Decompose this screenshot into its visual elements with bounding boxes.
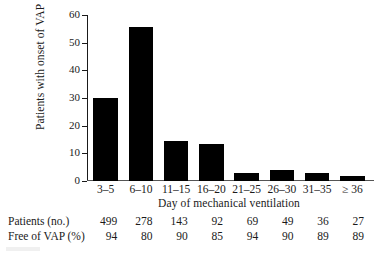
bar-slot: [340, 15, 365, 181]
table-cell: 49: [258, 214, 293, 229]
x-axis-tick-label: 6–10: [123, 183, 158, 196]
y-axis-tick-label: 40: [58, 64, 80, 75]
bar[interactable]: [129, 27, 154, 181]
table-cell: 499: [82, 214, 117, 229]
table-cell: 90: [258, 229, 293, 244]
y-axis-tick-label: 30: [58, 92, 80, 103]
x-axis-tick-label: 11–15: [159, 183, 194, 196]
x-axis-tick-label: 31–35: [300, 183, 335, 196]
bar[interactable]: [164, 141, 189, 181]
table-cell: 94: [223, 229, 258, 244]
x-axis-tick-label: 3–5: [88, 183, 123, 196]
bar[interactable]: [234, 173, 259, 181]
x-axis-title: Day of mechanical ventilation: [88, 197, 370, 209]
table-cell: 143: [153, 214, 188, 229]
table-cell: 92: [188, 214, 223, 229]
y-axis-tick-mark: [82, 43, 87, 44]
y-axis-tick-mark: [82, 126, 87, 127]
table-cell: 89: [329, 229, 364, 244]
data-table: Patients (no.)4992781439269493627Free of…: [0, 214, 381, 244]
y-axis-title: Patients with onset of VAP: [34, 10, 46, 130]
bar[interactable]: [305, 173, 330, 181]
y-axis-tick-label: 60: [58, 9, 80, 20]
x-axis-tick-label: 21–25: [229, 183, 264, 196]
bar-slot: [164, 15, 189, 181]
table-cell: 89: [294, 229, 329, 244]
table-cell: 278: [117, 214, 152, 229]
bar[interactable]: [340, 176, 365, 181]
bar-slot: [270, 15, 295, 181]
bar-slot: [305, 15, 330, 181]
table-cell: 27: [329, 214, 364, 229]
x-axis-tick-label: ≥ 36: [335, 183, 370, 196]
x-axis-tick-label: 26–30: [264, 183, 299, 196]
table-cell: 80: [117, 229, 152, 244]
bar-slot: [199, 15, 224, 181]
page-artifact: [6, 247, 40, 251]
figure: Patients with onset of VAP 0102030405060…: [0, 0, 381, 256]
y-axis-tick-mark: [82, 98, 87, 99]
table-row: Free of VAP (%)9480908594908989: [0, 229, 381, 244]
table-row-label: Patients (no.): [8, 214, 69, 229]
y-axis-tick-mark: [82, 153, 87, 154]
y-axis-tick-label: 20: [58, 120, 80, 131]
bar[interactable]: [270, 170, 295, 181]
table-cell: 90: [153, 229, 188, 244]
bar-slot: [93, 15, 118, 181]
y-axis-tick-label: 50: [58, 37, 80, 48]
table-cell: 85: [188, 229, 223, 244]
y-axis-tick-mark: [82, 15, 87, 16]
y-axis-tick-mark: [82, 181, 87, 182]
table-cell: 94: [82, 229, 117, 244]
bar[interactable]: [199, 144, 224, 181]
y-axis-tick-label: 0: [58, 175, 80, 186]
table-cell: 69: [223, 214, 258, 229]
bar-slot: [234, 15, 259, 181]
y-axis-tick-label: 10: [58, 147, 80, 158]
table-cell: 36: [294, 214, 329, 229]
bar-slot: [129, 15, 154, 181]
plot-area: [88, 15, 370, 181]
table-row: Patients (no.)4992781439269493627: [0, 214, 381, 229]
x-axis-tick-label: 16–20: [194, 183, 229, 196]
table-row-label: Free of VAP (%): [8, 229, 85, 244]
bar[interactable]: [93, 98, 118, 181]
y-axis-tick-mark: [82, 70, 87, 71]
